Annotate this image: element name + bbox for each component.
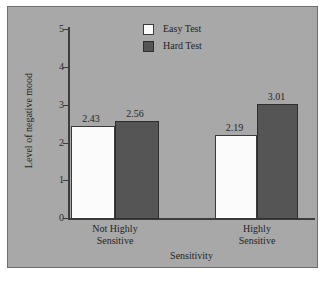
y-tick-label-3: 3: [50, 100, 64, 110]
y-tick-label-4: 4: [50, 62, 64, 72]
bar-value-hard-highly-sensitive: 3.01: [254, 91, 299, 102]
legend-swatch-hard-test: [143, 41, 154, 52]
y-tick-label-2: 2: [50, 138, 64, 148]
x-category-line-2: Sensitive: [212, 235, 302, 247]
legend-item-easy-test: Easy Test: [143, 22, 253, 37]
bar-value-easy-highly-sensitive: 2.19: [212, 122, 257, 133]
legend-label-hard-test: Hard Test: [163, 40, 202, 51]
x-category-line-1: Not Highly: [70, 223, 160, 235]
chart-figure: Easy Test Hard Test 5 4 3 2 1: [0, 0, 331, 281]
y-tick-mark-4: [63, 67, 69, 68]
bar-value-easy-not-highly-sensitive: 2.43: [68, 113, 114, 124]
y-tick-4: 4: [44, 62, 64, 72]
y-tick-5: 5: [44, 24, 64, 34]
bar-value-hard-not-highly-sensitive: 2.56: [112, 108, 158, 119]
y-tick-0: 0: [44, 213, 64, 223]
legend: Easy Test Hard Test: [143, 22, 253, 56]
y-tick-label-5: 5: [50, 24, 64, 34]
y-tick-3: 3: [44, 100, 64, 110]
legend-swatch-easy-test: [143, 24, 154, 35]
y-tick-mark-2: [63, 143, 69, 144]
y-tick-mark-5: [63, 29, 69, 30]
bar-easy-highly-sensitive: [215, 135, 257, 219]
x-category-line-1: Highly: [212, 223, 302, 235]
x-category-highly-sensitive: Highly Sensitive: [212, 223, 302, 246]
bar-easy-not-highly-sensitive: [71, 126, 115, 219]
y-tick-2: 2: [44, 138, 64, 148]
y-tick-mark-1: [63, 180, 69, 181]
bar-hard-highly-sensitive: [257, 104, 298, 219]
y-tick-label-0: 0: [50, 213, 64, 223]
x-category-not-highly-sensitive: Not Highly Sensitive: [70, 223, 160, 246]
y-tick-mark-0: [63, 218, 69, 219]
legend-item-hard-test: Hard Test: [143, 39, 253, 54]
x-category-line-2: Sensitive: [70, 235, 160, 247]
bar-hard-not-highly-sensitive: [115, 121, 159, 219]
legend-label-easy-test: Easy Test: [163, 23, 201, 34]
y-tick-mark-3: [63, 105, 69, 106]
y-tick-label-1: 1: [50, 175, 64, 185]
x-axis-title: Sensitivity: [68, 250, 315, 261]
y-tick-1: 1: [44, 175, 64, 185]
chart-panel: Easy Test Hard Test 5 4 3 2 1: [7, 6, 318, 268]
y-axis-title: Level of negative mood: [23, 61, 34, 181]
